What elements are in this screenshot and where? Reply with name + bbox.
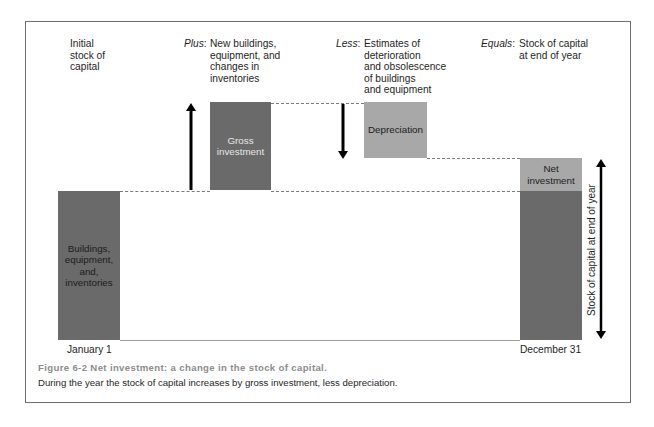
- end-date-label: December 31: [520, 344, 581, 356]
- start-date-label: January 1: [67, 344, 112, 356]
- arrow-up-icon: [186, 103, 196, 190]
- figure-caption-text: During the year the stock of capital inc…: [38, 377, 397, 388]
- arrow-down-icon: [338, 104, 348, 159]
- figure-caption-title: Figure 6-2 Net investment: a change in t…: [38, 362, 327, 373]
- stock-end-of-year-label: Stock of capital at end of year: [586, 160, 598, 340]
